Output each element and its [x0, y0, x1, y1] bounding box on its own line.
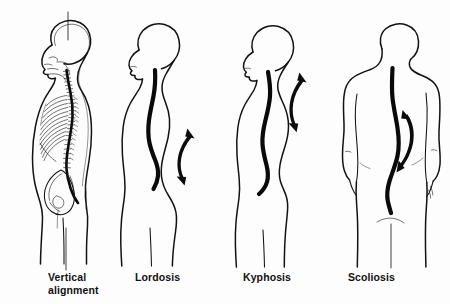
lordosis-arrow-body	[177, 134, 191, 180]
lordosis-spine	[148, 70, 158, 189]
figure-lordosis	[121, 24, 195, 266]
lordosis-body-front	[121, 50, 143, 266]
scoliosis-head-outline	[380, 24, 418, 60]
rib-cage	[40, 96, 68, 161]
leg-inner-line	[63, 218, 64, 264]
kyphosis-arrow	[289, 73, 307, 133]
kyphosis-arrow-head-top	[297, 73, 306, 83]
spine-column	[66, 70, 78, 203]
kyphosis-body-front	[235, 52, 257, 267]
kyphosis-face-line	[245, 68, 251, 69]
scoliosis-waist-crease-right	[412, 158, 423, 165]
kyphosis-spine	[259, 72, 270, 194]
lordosis-leg-inner	[150, 228, 152, 266]
lordosis-face-line	[131, 66, 137, 67]
femur-hint	[57, 210, 58, 228]
figure-kyphosis	[235, 26, 306, 267]
scoliosis-left-contour	[343, 49, 383, 180]
scoliosis-left-arm-inner	[355, 94, 358, 182]
scoliosis-right-elbow-crease	[432, 150, 438, 151]
acetabulum	[53, 196, 64, 208]
nasal-line	[45, 64, 53, 65]
scoliosis-right-hip-leg	[425, 183, 427, 268]
skull-inner-line	[54, 24, 89, 62]
lordosis-arrow-head-top	[185, 129, 194, 139]
scoliosis-gluteal-fold	[377, 218, 404, 223]
scoliosis-arrow-head-top	[401, 110, 410, 120]
figure-scoliosis	[343, 24, 441, 268]
diagram-canvas	[0, 0, 450, 304]
kyphosis-arrow-body	[289, 78, 303, 126]
lordosis-body-back	[161, 61, 176, 267]
kyphosis-body-back	[278, 63, 289, 268]
scoliosis-left-elbow-crease	[346, 151, 352, 152]
scoliosis-right-arm-inner	[425, 93, 427, 183]
kyphosis-arrow-head-bottom	[289, 123, 299, 132]
figure-vertical-alignment	[33, 12, 92, 270]
spinal-alignment-diagram: Vertical alignment Lordosis Kyphosis Sco…	[0, 0, 450, 304]
kyphosis-leg-inner	[263, 230, 265, 267]
lordosis-arrow	[177, 129, 195, 186]
scoliosis-waist-crease-left	[360, 163, 370, 169]
orbit-line	[49, 57, 58, 61]
scoliosis-spine	[387, 68, 399, 213]
lordosis-arrow-head-bottom	[177, 177, 187, 186]
maxilla-line	[48, 69, 59, 70]
